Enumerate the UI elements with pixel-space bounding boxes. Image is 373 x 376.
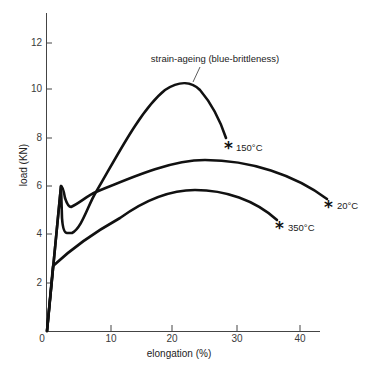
load-elongation-chart: 2 4 6 8 10 12 0 10 20 30 40 elongation (… [0, 0, 373, 376]
star-icon: * [324, 197, 333, 217]
label-150c: 150°C [236, 142, 263, 153]
x-tick-10: 10 [105, 333, 117, 344]
fracture-marker-150c: * 150°C [224, 138, 263, 158]
y-ticks [47, 43, 53, 283]
y-tick-4: 4 [36, 228, 42, 239]
annotation-leader-line [193, 67, 200, 82]
y-tick-2: 2 [36, 277, 42, 288]
fracture-marker-350c: * 350°C [275, 218, 315, 238]
x-ticks [111, 325, 300, 332]
x-axis-title: elongation (%) [147, 348, 211, 359]
label-350c: 350°C [288, 222, 315, 233]
star-icon: * [275, 218, 284, 238]
y-tick-6: 6 [36, 180, 42, 191]
x-tick-labels: 0 10 20 30 40 [39, 333, 306, 344]
x-tick-40: 40 [294, 333, 306, 344]
y-tick-12: 12 [31, 37, 43, 48]
star-icon: * [224, 138, 233, 158]
x-tick-0: 0 [39, 333, 45, 344]
x-tick-30: 30 [231, 333, 243, 344]
x-tick-20: 20 [166, 333, 178, 344]
y-tick-10: 10 [31, 83, 43, 94]
label-20c: 20°C [337, 200, 358, 211]
curve-20c [47, 160, 327, 331]
y-tick-8: 8 [36, 132, 42, 143]
fracture-marker-20c: * 20°C [324, 197, 358, 217]
y-axis-title: load (KN) [18, 144, 29, 186]
annotation-strain-ageing: strain-ageing (blue-brittleness) [151, 53, 279, 64]
curve-350c [47, 190, 277, 331]
y-tick-labels: 2 4 6 8 10 12 [31, 37, 43, 288]
